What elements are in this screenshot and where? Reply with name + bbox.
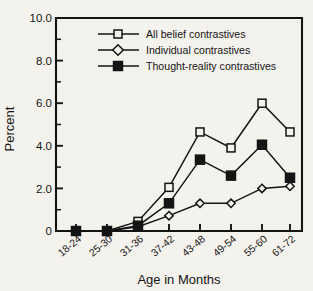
data-point-thought-reality-contrastives-43-48 (196, 155, 205, 164)
figure-container: 0 2.0 4.0 6.0 8.0 10.0 Percent 18-24 25-… (0, 0, 313, 291)
xtick-label-55-60: 55-60 (242, 233, 270, 259)
xtick-label-31-36: 31-36 (118, 233, 146, 259)
legend-entry-individual: Individual contrastives (98, 44, 250, 56)
data-point-all-belief-contrastives-49-54 (227, 144, 235, 152)
legend-label-all-belief: All belief contrastives (146, 28, 246, 40)
data-point-all-belief-contrastives-55-60 (258, 99, 266, 107)
xtick-label-43-48: 43-48 (180, 233, 208, 259)
ytick-label-4: 4.0 (36, 140, 52, 152)
data-point-all-belief-contrastives-61-72 (286, 128, 294, 136)
ytick-label-6: 6.0 (36, 97, 52, 109)
ytick-label-8: 8.0 (36, 55, 52, 67)
data-point-thought-reality-contrastives-37-42 (165, 199, 174, 208)
legend-label-thought-reality: Thought-reality contrastives (146, 60, 276, 72)
legend-label-individual: Individual contrastives (146, 44, 250, 56)
data-point-thought-reality-contrastives-18-24 (72, 227, 81, 236)
data-series-layer (72, 99, 295, 235)
xtick-label-61-72: 61-72 (270, 233, 298, 259)
xtick-label-25-30: 25-30 (87, 233, 115, 259)
series-line-all-belief-contrastives (76, 103, 290, 231)
xtick-label-49-54: 49-54 (211, 233, 239, 259)
data-point-thought-reality-contrastives-31-36 (134, 221, 143, 230)
xtick-label-37-42: 37-42 (149, 233, 177, 259)
data-point-all-belief-contrastives-43-48 (196, 128, 204, 136)
x-axis-title-text: Age in Months (137, 272, 221, 287)
xtick-label-18-24: 18-24 (56, 233, 84, 259)
data-point-individual-contrastives-49-54 (227, 199, 235, 207)
data-point-individual-contrastives-61-72 (286, 182, 294, 190)
ytick-label-10: 10.0 (30, 12, 52, 24)
data-point-thought-reality-contrastives-61-72 (286, 173, 295, 182)
legend-marker-open-diamond (113, 45, 124, 56)
y-axis-labels: 0 2.0 4.0 6.0 8.0 10.0 (30, 12, 52, 237)
x-axis-title: Age in Months (137, 272, 221, 287)
legend-marker-open-square (114, 30, 122, 38)
data-point-thought-reality-contrastives-49-54 (227, 171, 236, 180)
data-point-thought-reality-contrastives-25-30 (103, 227, 112, 236)
ytick-label-0: 0 (46, 225, 52, 237)
legend: All belief contrastives Individual contr… (98, 28, 276, 72)
series-line-individual-contrastives (76, 186, 290, 231)
series-all-belief-contrastives (72, 99, 294, 235)
data-point-individual-contrastives-55-60 (258, 184, 266, 192)
data-point-all-belief-contrastives-37-42 (165, 183, 173, 191)
data-point-individual-contrastives-37-42 (165, 211, 173, 219)
data-point-individual-contrastives-43-48 (196, 199, 204, 207)
y-axis-title: Percent (2, 106, 17, 151)
data-point-thought-reality-contrastives-55-60 (258, 140, 267, 149)
y-axis-title-text: Percent (2, 106, 17, 151)
x-axis-labels: 18-24 25-30 31-36 37-42 43-48 49-54 55-6… (56, 233, 298, 259)
ytick-label-2: 2.0 (36, 183, 52, 195)
line-chart: 0 2.0 4.0 6.0 8.0 10.0 Percent 18-24 25-… (0, 0, 313, 291)
legend-marker-filled-square (114, 62, 123, 71)
legend-entry-thought-reality: Thought-reality contrastives (98, 60, 276, 72)
legend-entry-all-belief: All belief contrastives (98, 28, 246, 40)
